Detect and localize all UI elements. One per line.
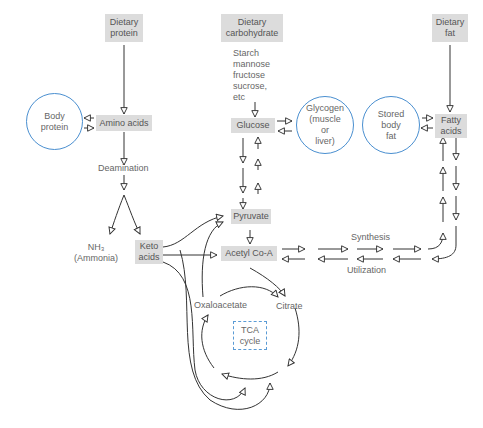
- glycogen-circle: Glycogen (muscle or liver): [296, 96, 354, 154]
- citrate-label: Citrate: [276, 301, 303, 312]
- pyruvate-box: Pyruvate: [231, 209, 271, 224]
- stored-body-fat-circle: Stored body fat: [362, 96, 420, 154]
- utilization-label: Utilization: [347, 265, 386, 276]
- oxaloacetate-label: Oxaloacetate: [194, 300, 247, 311]
- dietary-protein-box: Dietary protein: [105, 14, 143, 42]
- keto-acids-box: Keto acids: [135, 240, 163, 264]
- acetyl-coa-box: Acetyl Co-A: [221, 246, 277, 261]
- amino-acids-box: Amino acids: [96, 115, 152, 131]
- tca-cycle-box: TCA cycle: [233, 321, 267, 350]
- glucose-box: Glucose: [231, 118, 275, 133]
- dietary-fat-box: Dietary fat: [432, 14, 468, 42]
- synthesis-label: Synthesis: [351, 232, 390, 243]
- dietary-carbohydrate-box: Dietary carbohydrate: [221, 14, 283, 42]
- nh3-label: NH₃ (Ammonia): [74, 242, 118, 264]
- deamination-label: Deamination: [98, 163, 149, 174]
- body-protein-circle: Body protein: [26, 93, 83, 150]
- fatty-acids-box: Fatty acids: [435, 114, 467, 138]
- carb-sources-label: Starch mannose fructose sucrose, etc: [233, 48, 270, 103]
